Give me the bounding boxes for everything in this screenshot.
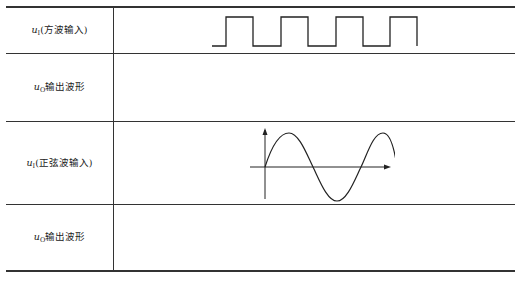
square-wave-icon (200, 12, 440, 52)
sine-wave-axes-icon (245, 125, 395, 205)
row-divider-1 (6, 53, 515, 54)
row-label-square-input: uI(方波输入) (6, 24, 113, 39)
table-top-border (6, 6, 515, 8)
label-text: (方波输入) (40, 24, 87, 35)
row-divider-2 (6, 121, 515, 122)
label-text: 输出波形 (45, 231, 85, 242)
row-label-output-1: uO输出波形 (6, 81, 113, 96)
row-label-sine-input: uI(正弦波输入) (6, 157, 113, 172)
row-label-output-2: uO输出波形 (6, 231, 113, 246)
column-divider (113, 7, 114, 271)
label-text: 输出波形 (45, 81, 85, 92)
label-text: (正弦波输入) (35, 157, 92, 168)
table-bottom-border (6, 270, 515, 272)
